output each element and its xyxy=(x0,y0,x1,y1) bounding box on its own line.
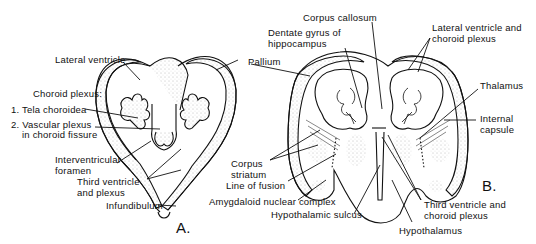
brain-development-diagram: Lateral ventricle Choroid plexus: 1. Tel… xyxy=(0,0,536,244)
label-third-ventricle-a-2: and plexus xyxy=(77,187,125,198)
label-third-ventricle-b-1: Third ventricle and xyxy=(424,199,506,210)
label-vascular-plexus-2: in choroid fissure xyxy=(22,129,97,140)
label-thalamus: Thalamus xyxy=(480,80,523,91)
label-dentate-gyrus-1: Dentate gyrus of xyxy=(268,27,341,38)
label-pallium: Pallium xyxy=(248,56,281,67)
label-corpus-striatum-1: Corpus xyxy=(231,158,263,169)
label-internal-capsule-2: capsule xyxy=(480,124,514,135)
label-infundibulum: Infundibulum xyxy=(106,200,163,211)
label-internal-capsule-1: Internal xyxy=(480,113,513,124)
label-interventricular-2: foramen xyxy=(55,165,91,176)
label-hypothalamic-sulcus: Hypothalamic sulcus xyxy=(271,209,362,220)
label-interventricular-1: Interventricular xyxy=(55,154,121,165)
label-hypothalamus: Hypothalamus xyxy=(399,225,462,236)
label-corpus-callosum: Corpus callosum xyxy=(303,12,377,23)
panel-b-letter: B. xyxy=(482,178,497,194)
label-lateral-ventricle-a: Lateral ventricle xyxy=(55,54,125,65)
label-lateral-ventricle-b-1: Lateral ventricle and xyxy=(432,22,522,33)
label-third-ventricle-a-1: Third ventricle xyxy=(77,176,140,187)
panel-a-letter: A. xyxy=(176,220,191,236)
label-tela-choroidea: 1. Tela choroidea xyxy=(11,104,87,115)
label-amygdaloid-complex: Amygdaloid nuclear complex xyxy=(209,196,336,207)
label-corpus-striatum-2: striatum xyxy=(231,169,266,180)
label-choroid-plexus: Choroid plexus: xyxy=(33,88,102,99)
label-third-ventricle-b-2: choroid plexus xyxy=(424,210,488,221)
label-line-of-fusion: Line of fusion xyxy=(226,180,285,191)
label-lateral-ventricle-b-2: choroid plexus xyxy=(432,33,496,44)
label-dentate-gyrus-2: hippocampus xyxy=(268,38,327,49)
